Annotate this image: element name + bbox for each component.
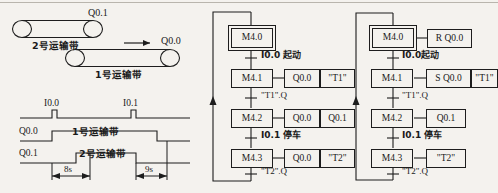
chart-right-transition-1: "T1".Q [402,91,428,100]
step-label: M4.2 [242,114,262,124]
chart-right-step-0: M4.0 [372,28,414,48]
step-label: M4.1 [382,74,402,84]
timing-q00-belt-label: 1号运输带 [72,127,119,137]
chart-right-step-2: M4.2 [371,109,413,128]
chart-right-action-1b: "T1" [471,69,498,88]
step-label: M4.3 [242,154,262,164]
chart-left-step-0: M4.0 [231,28,273,48]
chart-left-action-1a: Q0.0 [284,69,320,88]
chart-left-transition-1: "T1".Q [261,91,287,100]
chart-right-action-0a: R Q0.0 [427,29,472,48]
chart-left-action-2a: Q0.0 [284,109,320,128]
left-panel-graphics [0,0,205,193]
interval-8s-label: 8s [64,165,72,174]
chart-left-action-3a: Q0.0 [284,149,320,168]
belt1-motor-label: Q0.0 [161,36,181,46]
timing-signal-i00-label: I0.0 [44,99,59,109]
action-label: "T1" [475,74,493,84]
figure-canvas: Q0.1 2号运输带 Q0.0 1号运输带 I0.0 I0.1 Q0.0 1号运… [0,0,498,193]
chart-right-step-1: M4.1 [371,69,413,88]
step-label: M4.2 [382,114,402,124]
chart-left-transition-2: I0.1 停车 [261,131,301,140]
action-label: S Q0.0 [435,74,461,84]
belt2-motor-label: Q0.1 [88,8,108,18]
action-label: "T2" [437,154,455,164]
belt2-name-label: 2号运输带 [32,41,79,51]
chart-left-transition-0: I0.0 起动 [261,51,301,60]
timing-signal-q00-label: Q0.0 [19,127,38,137]
step-label: M4.0 [383,33,403,43]
chart-right-action-2a: Q0.1 [426,109,466,128]
chart-left-transition-3: "T2".Q [261,167,287,176]
chart-right-action-1a: S Q0.0 [426,69,471,88]
chart-right-transition-3: "T2".Q [402,167,428,176]
chart-right-transition-0: I0.0起动 [402,51,439,60]
step-label: M4.0 [242,33,262,43]
belt1-name-label: 1号运输带 [95,70,142,80]
chart-left-step-1: M4.1 [231,69,273,88]
action-label: Q0.0 [293,114,312,124]
action-label: R Q0.0 [436,34,463,44]
action-label: Q0.1 [437,114,456,124]
step-label: M4.1 [242,74,262,84]
action-label: Q0.0 [293,74,312,84]
step-label: M4.3 [382,154,402,164]
interval-9s-label: 9s [145,165,153,174]
timing-signal-q01-label: Q0.1 [19,149,38,159]
timing-q01-belt-label: 2号运输带 [79,149,126,159]
chart-right-action-3a: "T2" [426,149,466,168]
chart-right-transition-2: I0.1 停车 [402,131,442,140]
action-label: Q0.0 [293,154,312,164]
chart-left-step-2: M4.2 [231,109,273,128]
timing-signal-i01-label: I0.1 [123,99,138,109]
